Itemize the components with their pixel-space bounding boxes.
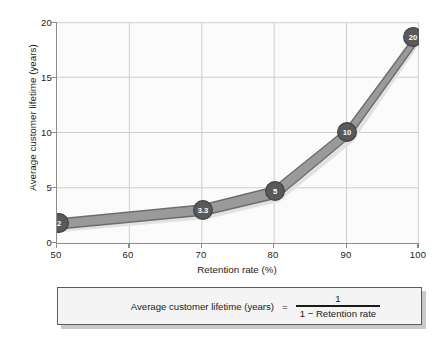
formula-left-side: Average customer lifetime (years): [131, 301, 274, 312]
x-tick-label-70: 70: [181, 249, 221, 260]
x-tick-label-90: 90: [326, 249, 366, 260]
formula-expression: Average customer lifetime (years) = 1 1 …: [131, 293, 380, 318]
x-tick-mark-80: [273, 243, 274, 248]
formula-box: Average customer lifetime (years) = 1 1 …: [57, 287, 422, 325]
x-tick-label-100: 100: [398, 249, 438, 260]
x-tick-label-60: 60: [108, 249, 148, 260]
formula-numerator: 1: [313, 293, 362, 305]
formula-equals-sign: =: [282, 301, 288, 312]
x-tick-mark-50: [56, 243, 57, 248]
data-point-marker-5: [404, 28, 419, 47]
data-point-marker-2: [194, 201, 213, 220]
x-tick-label-80: 80: [253, 249, 293, 260]
plot-canvas: [57, 22, 419, 243]
chart-figure: 20 15 10 5 0 Average customer lifetime (…: [0, 0, 444, 338]
x-tick-mark-70: [201, 243, 202, 248]
data-point-marker-4: [338, 123, 357, 142]
plot-area: 2 3.3 5 10 20: [56, 22, 419, 244]
formula-fraction: 1 1 − Retention rate: [296, 293, 381, 318]
x-tick-label-50: 50: [36, 249, 76, 260]
data-point-marker-3: [266, 182, 285, 201]
x-tick-mark-60: [128, 243, 129, 248]
y-tick-label-0: 0: [26, 237, 52, 248]
x-tick-mark-100: [417, 243, 418, 248]
y-axis-title: Average customer lifetime (years): [27, 18, 38, 218]
x-axis-title: Retention rate (%): [56, 264, 418, 275]
formula-denominator: 1 − Retention rate: [296, 307, 381, 319]
x-tick-mark-90: [346, 243, 347, 248]
